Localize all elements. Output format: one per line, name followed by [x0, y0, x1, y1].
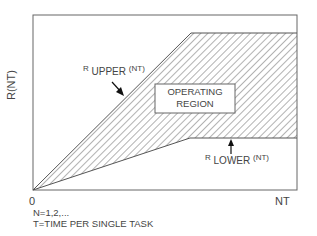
origin-label: 0 [29, 196, 35, 207]
y-axis-label: R(NT) [5, 70, 17, 100]
operating-region-label-line2: REGION [155, 98, 235, 110]
lower-arrowhead-icon [228, 139, 234, 146]
upper-curve-subscript: UPPER [92, 66, 126, 77]
lower-curve-suffix: (NT) [253, 153, 269, 162]
operating-region-label-line1: OPERATING [155, 86, 235, 98]
x-axis-label: NT [275, 196, 290, 207]
lower-curve-label: R LOWER (NT) [205, 156, 269, 166]
footnote-n: N=1,2,... [33, 208, 69, 218]
footnote-t: T=TIME PER SINGLE TASK [33, 219, 153, 229]
lower-curve-subscript: LOWER [214, 155, 251, 166]
diagram-canvas [0, 0, 317, 236]
operating-region-label: OPERATING REGION [155, 86, 235, 110]
upper-curve-label: R UPPER (NT) [83, 67, 145, 77]
lower-curve-prefix: R [205, 153, 211, 162]
upper-curve-suffix: (NT) [129, 64, 145, 73]
upper-curve-prefix: R [83, 64, 89, 73]
